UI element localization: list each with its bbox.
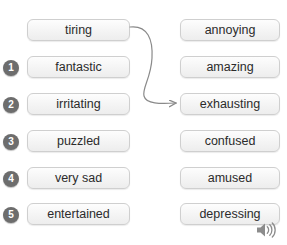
matching-row: 2 irritating exhausting xyxy=(0,90,287,120)
word-chip-left-1[interactable]: fantastic xyxy=(27,56,130,78)
item-number-badge-2: 2 xyxy=(3,97,19,113)
word-chip-right-1[interactable]: amazing xyxy=(180,56,280,78)
word-chip-left-3[interactable]: puzzled xyxy=(27,130,130,152)
matching-row: 3 puzzled confused xyxy=(0,127,287,157)
item-number-badge-5: 5 xyxy=(3,207,19,223)
matching-row: tiring annoying xyxy=(0,16,287,46)
word-chip-left-2[interactable]: irritating xyxy=(27,93,130,115)
word-chip-left-5[interactable]: entertained xyxy=(27,203,130,225)
item-number-badge-1: 1 xyxy=(3,60,19,76)
item-number-badge-3: 3 xyxy=(3,134,19,150)
word-chip-right-3[interactable]: confused xyxy=(180,130,280,152)
speaker-icon[interactable] xyxy=(255,220,277,240)
word-chip-left-4[interactable]: very sad xyxy=(27,167,130,189)
matching-exercise: tiring annoying 1 fantastic amazing 2 ir… xyxy=(0,0,287,245)
word-chip-right-0[interactable]: annoying xyxy=(180,19,280,41)
word-chip-right-2[interactable]: exhausting xyxy=(180,93,280,115)
matching-row: 1 fantastic amazing xyxy=(0,53,287,83)
item-number-badge-4: 4 xyxy=(3,171,19,187)
matching-row: 5 entertained depressing xyxy=(0,200,287,230)
word-chip-left-0[interactable]: tiring xyxy=(27,19,130,41)
matching-row: 4 very sad amused xyxy=(0,164,287,194)
word-chip-right-4[interactable]: amused xyxy=(180,167,280,189)
